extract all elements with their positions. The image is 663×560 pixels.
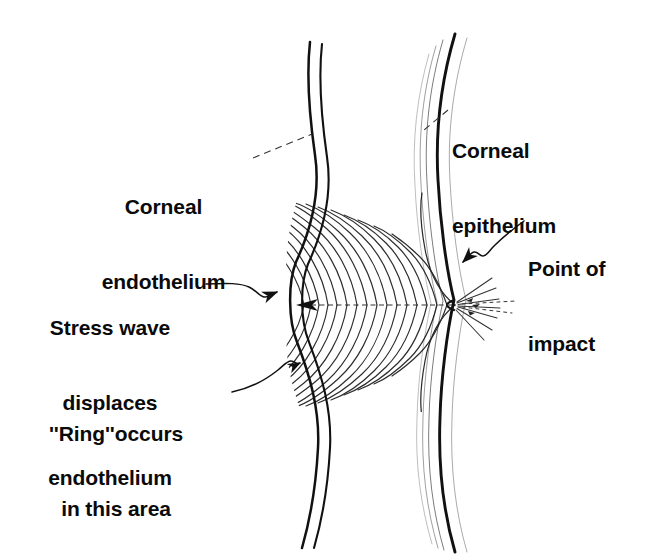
endothelium-curve xyxy=(290,42,330,548)
label-point-of-impact-line1: Point of xyxy=(528,256,658,281)
label-stress-wave-line1: Stress wave xyxy=(12,315,208,340)
label-ring-area: ''Ring''occurs in this area xyxy=(18,371,214,560)
label-ring-area-line2: in this area xyxy=(18,496,214,521)
label-point-of-impact-line2: impact xyxy=(528,331,658,356)
leader-ring-area xyxy=(232,361,300,392)
figure-root: Corneal endothelium Corneal epithelium S… xyxy=(0,0,663,560)
label-corneal-endothelium-line1: Corneal xyxy=(56,194,271,219)
label-ring-area-line1: ''Ring''occurs xyxy=(18,421,214,446)
label-point-of-impact: Point of impact xyxy=(528,206,658,406)
label-corneal-epithelium-line1: Corneal xyxy=(452,138,652,163)
